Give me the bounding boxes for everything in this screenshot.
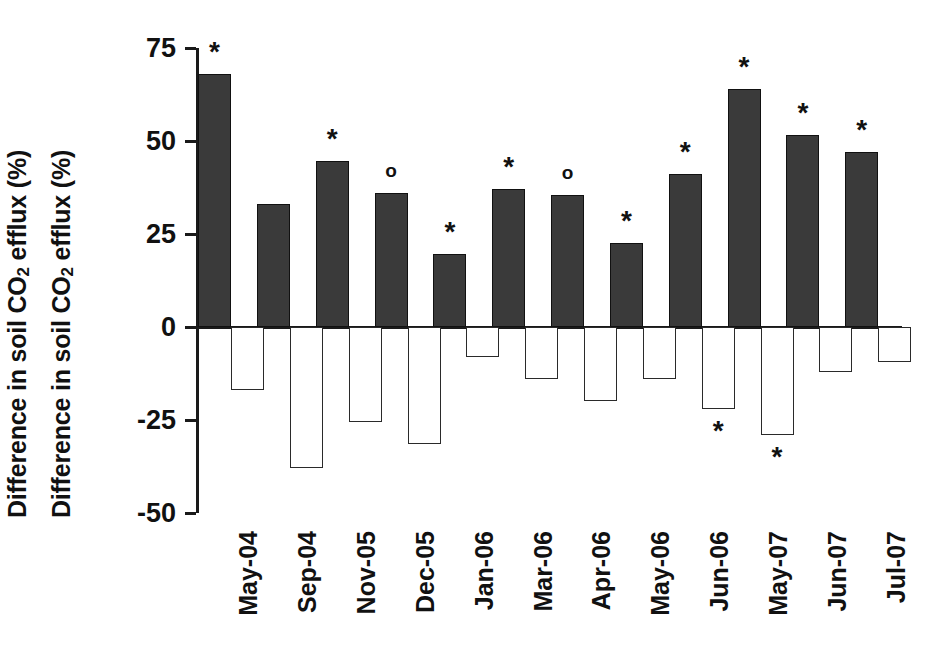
x-axis-tick-label: Jun-06: [705, 531, 734, 612]
x-axis-tick-label: May-04: [234, 531, 263, 616]
y-axis-title-2-post: efflux (%): [47, 149, 75, 266]
x-axis-tick-label: Jan-06: [470, 531, 499, 610]
y-axis-tick: [185, 233, 196, 236]
bar-positive: [728, 89, 761, 327]
y-axis-title-2-sub: 2: [58, 267, 77, 276]
marginal-significance-marker: o: [385, 161, 397, 180]
x-axis-tick-label: Apr-06: [587, 531, 616, 610]
bar-positive: [610, 243, 643, 327]
significance-marker: *: [680, 138, 691, 166]
significance-marker: *: [772, 443, 783, 471]
bar-positive: [845, 152, 878, 327]
bar-positive: [257, 204, 290, 327]
x-axis-tick-label: May-07: [764, 531, 793, 616]
bar-positive: [551, 195, 584, 327]
x-axis-tick-label: Mar-06: [529, 531, 558, 612]
significance-marker: *: [621, 207, 632, 235]
y-axis-title-2-pre: Difference in soil CO: [47, 276, 75, 518]
bar-negative: [702, 327, 735, 409]
y-axis-tick: [185, 140, 196, 143]
bar-positive: [669, 174, 702, 327]
y-axis-tick: [185, 326, 196, 329]
bar-positive: [198, 74, 231, 327]
y-axis-tick-label: 75: [146, 33, 176, 64]
bar-negative: [643, 327, 676, 379]
x-axis-tick-label: Sep-04: [293, 531, 322, 613]
y-axis-tick-label: -25: [137, 405, 176, 436]
x-axis-tick-label: Dec-05: [411, 531, 440, 613]
y-axis-tick-label: 25: [146, 219, 176, 250]
x-axis-tick-label: Jul-07: [882, 531, 911, 603]
figure-root: Difference in soil CO2 efflux (%) Differ…: [0, 0, 930, 667]
significance-marker: *: [209, 38, 220, 66]
plot-area: 7550250-25-50 **o**o*******: [196, 48, 902, 513]
x-axis-tick-label: May-06: [646, 531, 675, 616]
bar-positive: [316, 161, 349, 327]
y-axis-tick-label: 50: [146, 126, 176, 157]
significance-marker: *: [713, 417, 724, 445]
bar-negative: [466, 327, 499, 357]
bar-negative: [878, 327, 911, 362]
bar-positive: [375, 193, 408, 327]
bar-negative: [349, 327, 382, 422]
bar-negative: [761, 327, 794, 435]
significance-marker: *: [856, 116, 867, 144]
significance-marker: *: [797, 99, 808, 127]
y-axis-tick: [185, 512, 196, 515]
significance-marker: *: [444, 218, 455, 246]
x-axis-tick-label: Nov-05: [352, 531, 381, 614]
bar-negative: [584, 327, 617, 401]
significance-marker: *: [327, 125, 338, 153]
x-axis-tick-label: Jun-07: [823, 531, 852, 612]
marginal-significance-marker: o: [562, 163, 574, 182]
y-axis-tick: [185, 47, 196, 50]
y-axis-tick-label: 0: [161, 312, 176, 343]
bar-negative: [231, 327, 264, 390]
bar-positive: [433, 254, 466, 327]
y-axis-title-2: Difference in soil CO2 efflux (%): [47, 149, 78, 517]
y-axis-tick-label: -50: [137, 498, 176, 529]
bar-negative: [290, 327, 323, 468]
bar-negative: [819, 327, 852, 372]
bar-positive: [786, 135, 819, 327]
y-axis-title-2-wrap: Difference in soil CO2 efflux (%): [0, 0, 60, 667]
significance-marker: *: [503, 153, 514, 181]
y-axis-tick: [185, 419, 196, 422]
significance-marker: *: [739, 53, 750, 81]
bar-negative: [525, 327, 558, 379]
bar-positive: [492, 189, 525, 327]
bar-negative: [408, 327, 441, 444]
